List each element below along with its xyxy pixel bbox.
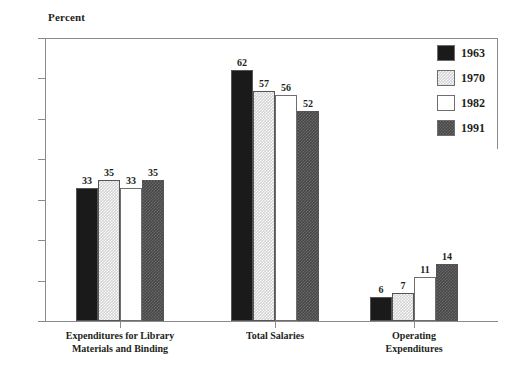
legend-label: 1963 — [461, 44, 485, 63]
plot-area: 3335333562575652671114 1963197019821991 — [45, 38, 498, 322]
bar-value-label: 14 — [430, 251, 464, 262]
bar-value-label: 35 — [136, 167, 170, 178]
y-axis-tick — [38, 281, 45, 282]
bar — [370, 297, 392, 321]
bar-value-label: 52 — [291, 98, 325, 109]
category-label-line: Expenditures for Library — [40, 330, 200, 343]
legend-swatch — [437, 45, 455, 61]
bar — [142, 180, 164, 322]
category-label-line: Total Salaries — [195, 330, 355, 343]
x-axis-tick — [414, 321, 415, 328]
y-axis-line — [45, 38, 46, 322]
bar — [98, 180, 120, 322]
plot-frame-top — [45, 38, 498, 39]
legend-swatch — [437, 95, 455, 111]
bar — [76, 188, 98, 321]
chart-legend: 1963197019821991 — [437, 38, 498, 149]
category-label-line: Operating — [334, 330, 494, 343]
x-axis-tick — [275, 321, 276, 328]
legend-item[interactable]: 1970 — [437, 69, 498, 88]
legend-label: 1982 — [461, 94, 485, 113]
legend-item[interactable]: 1991 — [437, 119, 498, 138]
x-axis-category-label: OperatingExpenditures — [334, 330, 494, 355]
legend-label: 1970 — [461, 69, 485, 88]
y-axis-tick — [38, 200, 45, 201]
x-axis-category-label: Expenditures for LibraryMaterials and Bi… — [40, 330, 200, 355]
y-axis-tick — [38, 159, 45, 160]
bar — [120, 188, 142, 321]
category-label-line: Materials and Binding — [40, 343, 200, 356]
x-axis-line — [45, 321, 498, 322]
bar — [231, 70, 253, 321]
legend-item[interactable]: 1982 — [437, 94, 498, 113]
x-axis-category-label: Total Salaries — [195, 330, 355, 343]
category-label-line: Expenditures — [334, 343, 494, 356]
bar-chart: Percent 3335333562575652671114 196319701… — [0, 0, 523, 371]
bar — [392, 293, 414, 321]
y-axis-tick — [38, 240, 45, 241]
legend-swatch — [437, 120, 455, 136]
bar-value-label: 56 — [269, 82, 303, 93]
bar-value-label: 62 — [225, 57, 259, 68]
y-axis-tick — [38, 119, 45, 120]
bar — [436, 264, 458, 321]
bar — [297, 111, 319, 321]
y-axis-title: Percent — [48, 11, 85, 23]
y-axis-tick — [38, 38, 45, 39]
bar — [253, 91, 275, 321]
y-axis-tick — [38, 321, 45, 322]
x-axis-tick — [120, 321, 121, 328]
legend-item[interactable]: 1963 — [437, 44, 498, 63]
legend-label: 1991 — [461, 119, 485, 138]
bar — [414, 277, 436, 321]
y-axis-tick — [38, 78, 45, 79]
bar — [275, 95, 297, 321]
legend-swatch — [437, 70, 455, 86]
